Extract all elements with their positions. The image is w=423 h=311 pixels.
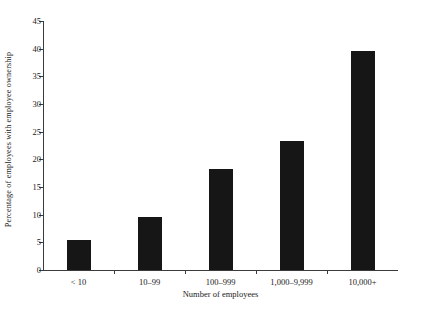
bar-chart-figure: Percentage of employees with employee ow… [0,0,423,311]
bar [351,51,375,270]
y-tick-label: 40 [33,44,42,54]
y-tick-label: 45 [33,16,42,26]
x-tick-label: < 10 [71,277,86,287]
x-tick-mark [114,270,115,274]
x-tick-label: 100–999 [206,277,236,287]
x-axis-line [43,270,398,271]
y-tick-label: 30 [33,99,42,109]
y-tick-label: 0 [37,265,41,275]
x-tick-label: 1,000–9,999 [270,277,313,287]
x-tick-mark [327,270,328,274]
plot-area: 051015202530354045 < 1010–99100–9991,000… [43,21,398,270]
y-tick-label: 5 [37,237,41,247]
y-tick-label: 35 [33,71,42,81]
bar [209,169,233,270]
y-tick-label: 10 [33,210,42,220]
bar [138,217,162,270]
bar [67,240,91,270]
y-tick-label: 20 [33,154,42,164]
x-tick-mark [256,270,257,274]
bar [280,141,304,270]
x-axis-title: Number of employees [43,289,398,299]
x-tick-label: 10–99 [139,277,160,287]
y-tick-label: 25 [33,127,42,137]
x-tick-mark [185,270,186,274]
y-axis-title: Percentage of employees with employee ow… [0,0,18,278]
y-axis-title-label: Percentage of employees with employee ow… [5,51,14,227]
y-axis-line [43,21,44,270]
x-tick-label: 10,000+ [348,277,376,287]
y-tick-label: 15 [33,182,42,192]
